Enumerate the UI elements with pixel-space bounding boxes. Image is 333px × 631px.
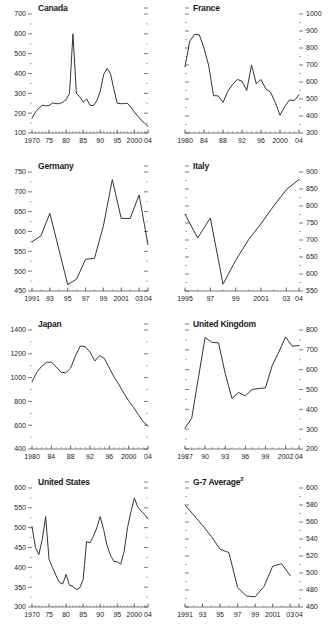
x-tick-label: 1980 xyxy=(177,137,193,144)
chart-title-text: Germany xyxy=(38,161,73,171)
chart-panel-united-states: 3003504004505005506001970758085909520000… xyxy=(0,474,166,631)
chart-title-text: Italy xyxy=(193,161,209,171)
y-tick-label: 500 xyxy=(14,524,26,531)
y-tick-label: 520 xyxy=(306,552,318,559)
x-tick-label: 88 xyxy=(67,453,75,460)
y-tick-label: 200 xyxy=(14,110,26,117)
y-tick-label: 600 xyxy=(14,30,26,37)
x-tick-label: 88 xyxy=(219,137,227,144)
x-tick-label: 2000 xyxy=(127,137,143,144)
x-tick-label: 80 xyxy=(62,137,70,144)
x-tick-label: 04 xyxy=(295,611,303,618)
x-tick-label: 90 xyxy=(96,137,104,144)
x-tick-label: 90 xyxy=(201,453,209,460)
y-tick-label: 100 xyxy=(14,129,26,136)
y-tick-label: 580 xyxy=(306,501,318,508)
y-tick-label: 500 xyxy=(14,50,26,57)
x-tick-label: 03 xyxy=(282,295,290,302)
x-tick-label: 03 xyxy=(135,295,143,302)
x-tick-label: 95 xyxy=(64,295,72,302)
x-tick-label: 93 xyxy=(46,295,54,302)
title-footnote-marker: 2 xyxy=(240,476,243,482)
chart-panel-united-kingdom: 200300400500600700800198790939699200204U… xyxy=(167,316,333,473)
y-tick-label: 700 xyxy=(306,61,318,68)
x-tick-label: 99 xyxy=(99,295,107,302)
x-tick-label: 04 xyxy=(295,295,303,302)
x-tick-label: 2000 xyxy=(121,453,137,460)
x-tick-label: 04 xyxy=(144,453,152,460)
chart-title-g7-average: G-7 Average2 xyxy=(193,478,243,487)
y-tick-label: 700 xyxy=(306,346,318,353)
x-tick-label: 04 xyxy=(295,453,303,460)
chart-title-text: France xyxy=(193,3,220,13)
y-tick-label: 500 xyxy=(14,268,26,275)
chart-title-canada: Canada xyxy=(38,4,68,13)
chart-title-text: Japan xyxy=(38,319,62,329)
chart-title-italy: Italy xyxy=(193,162,209,171)
series-line xyxy=(185,34,299,115)
series-line xyxy=(32,346,148,426)
y-tick-label: 800 xyxy=(306,44,318,51)
x-tick-label: 04 xyxy=(144,611,152,618)
plot-area-italy: 5506006507007508008509001995979920010304… xyxy=(167,158,333,315)
y-tick-label: 600 xyxy=(306,270,318,277)
y-tick-label: 750 xyxy=(14,168,26,175)
x-tick-label: 04 xyxy=(144,295,152,302)
y-tick-label: 450 xyxy=(14,287,26,294)
y-tick-label: 600 xyxy=(14,484,26,491)
x-tick-label: 75 xyxy=(45,137,53,144)
x-tick-label: 99 xyxy=(232,295,240,302)
x-tick-label: 1970 xyxy=(24,611,40,618)
y-tick-label: 1200 xyxy=(10,350,26,357)
chart-title-united-kingdom: United Kingdom xyxy=(193,320,256,329)
y-tick-label: 700 xyxy=(14,10,26,17)
y-tick-label: 560 xyxy=(306,518,318,525)
plot-area-japan: 400600800100012001400198084889296200004J… xyxy=(0,316,166,473)
series-line xyxy=(185,337,299,428)
chart-panel-japan: 400600800100012001400198084889296200004J… xyxy=(0,316,166,473)
series-line xyxy=(185,179,299,284)
y-tick-label: 480 xyxy=(306,586,318,593)
y-tick-label: 300 xyxy=(14,603,26,610)
chart-panel-canada: 1002003004005006007001970758085909520000… xyxy=(0,0,166,157)
x-tick-label: 99 xyxy=(251,611,259,618)
x-tick-label: 2001 xyxy=(265,611,281,618)
x-tick-label: 2002 xyxy=(278,453,294,460)
y-tick-label: 600 xyxy=(306,78,318,85)
chart-panel-italy: 5506006507007508008509001995979920010304… xyxy=(167,158,333,315)
x-tick-label: 90 xyxy=(96,611,104,618)
y-tick-label: 300 xyxy=(306,426,318,433)
plot-area-united-states: 3003504004505005506001970758085909520000… xyxy=(0,474,166,631)
y-tick-label: 300 xyxy=(14,90,26,97)
x-tick-label: 93 xyxy=(199,611,207,618)
chart-panel-germany: 4505005506006507007501991939597992001030… xyxy=(0,158,166,315)
y-tick-label: 450 xyxy=(14,544,26,551)
y-tick-label: 550 xyxy=(306,287,318,294)
x-tick-label: 2001 xyxy=(113,295,129,302)
x-tick-label: 2001 xyxy=(253,295,269,302)
y-tick-label: 900 xyxy=(306,168,318,175)
x-tick-label: 97 xyxy=(206,295,214,302)
series-line xyxy=(185,505,290,597)
y-tick-label: 200 xyxy=(306,445,318,452)
chart-title-text: United Kingdom xyxy=(193,319,256,329)
x-tick-label: 96 xyxy=(241,453,249,460)
y-tick-label: 500 xyxy=(306,569,318,576)
chart-title-text: G-7 Average xyxy=(193,477,240,487)
x-tick-label: 04 xyxy=(144,137,152,144)
series-line xyxy=(32,498,148,590)
y-tick-label: 800 xyxy=(306,202,318,209)
y-tick-label: 850 xyxy=(306,185,318,192)
y-tick-label: 400 xyxy=(306,112,318,119)
y-tick-label: 1000 xyxy=(10,374,26,381)
x-tick-label: 95 xyxy=(216,611,224,618)
x-tick-label: 97 xyxy=(82,295,90,302)
y-tick-label: 550 xyxy=(14,504,26,511)
x-tick-label: 95 xyxy=(113,137,121,144)
y-tick-label: 300 xyxy=(306,129,318,136)
figure-sheet: 1002003004005006007001970758085909520000… xyxy=(0,0,333,631)
y-tick-label: 600 xyxy=(306,366,318,373)
series-line xyxy=(32,180,148,285)
y-tick-label: 1400 xyxy=(10,326,26,333)
y-tick-label: 500 xyxy=(306,386,318,393)
